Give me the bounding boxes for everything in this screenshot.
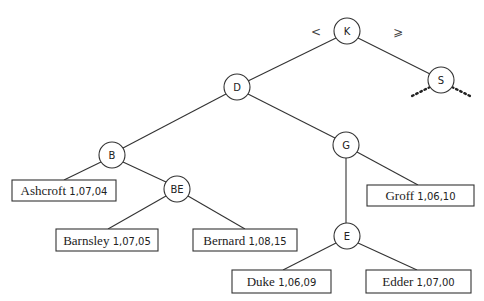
leaf-record-barnsley: Barnsley 1,07,05 (56, 229, 158, 251)
leaf-records: Ashcroft 1,07,04Barnsley 1,07,05Bernard … (12, 180, 474, 293)
edge-be-bernard (188, 196, 245, 229)
edge-be-barnsley (108, 196, 166, 229)
tree-node-s: S (428, 67, 454, 93)
leaf-text: Bernard 1,08,15 (203, 233, 286, 248)
leaf-code: 1,07,05 (113, 236, 151, 247)
tree-node-d: D (224, 74, 250, 100)
node-label: S (438, 75, 444, 86)
leaf-record-groff: Groff 1,06,10 (367, 185, 474, 206)
tree-node-e: E (334, 223, 360, 249)
leaf-name: Edder (382, 274, 416, 289)
leaf-text: Ashcroft 1,07,04 (21, 183, 108, 198)
continuation-dots-left (410, 87, 430, 97)
edge-b-ashcroft (64, 162, 101, 180)
node-label: G (342, 140, 350, 151)
leaf-text: Barnsley 1,07,05 (63, 233, 151, 248)
leaf-name: Bernard (203, 233, 248, 248)
tree-node-g: G (333, 132, 359, 158)
leaf-code: 1,06,10 (417, 191, 455, 202)
node-label: D (233, 82, 241, 93)
continuation-dots-right (452, 87, 472, 97)
tree-node-k: K (334, 18, 360, 44)
leaf-name: Groff (385, 188, 417, 203)
tree-node-b: B (99, 142, 125, 168)
leaf-code: 1,06,09 (278, 277, 316, 288)
node-label: B (109, 150, 116, 161)
tree-diagram: < ⩾ KSDBBEGE Ashcroft 1,07,04Barnsley 1,… (0, 0, 484, 301)
edge-k-d (248, 38, 336, 81)
leaf-record-ashcroft: Ashcroft 1,07,04 (12, 180, 116, 201)
leaf-record-bernard: Bernard 1,08,15 (193, 229, 297, 251)
edge-k-s (358, 38, 430, 74)
tree-node-be: BE (164, 176, 190, 202)
leaf-name: Barnsley (63, 233, 112, 248)
edge-label-less-than: < (311, 25, 321, 39)
leaf-text: Duke 1,06,09 (247, 274, 317, 289)
node-label: BE (170, 184, 183, 195)
node-label: K (344, 26, 351, 37)
leaf-code: 1,07,00 (417, 277, 455, 288)
leaf-code: 1,07,04 (69, 186, 107, 197)
internal-nodes: KSDBBEGE (99, 18, 454, 249)
edge-b-be (123, 162, 166, 182)
leaf-text: Groff 1,06,10 (385, 188, 455, 203)
edge-g-groff (357, 152, 418, 185)
leaf-record-edder: Edder 1,07,00 (366, 270, 471, 293)
edge-label-greater-equal: ⩾ (393, 25, 403, 39)
edge-e-edder (358, 243, 417, 270)
edge-d-g (248, 94, 335, 138)
node-label: E (344, 231, 350, 242)
edge-d-b (123, 94, 226, 148)
leaf-name: Duke (247, 274, 278, 289)
leaf-record-duke: Duke 1,06,09 (232, 270, 331, 293)
leaf-code: 1,08,15 (248, 236, 286, 247)
leaf-name: Ashcroft (21, 183, 70, 198)
leaf-text: Edder 1,07,00 (382, 274, 454, 289)
